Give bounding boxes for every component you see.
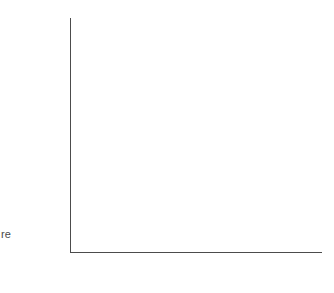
scatter-plot-figure: re bbox=[0, 0, 334, 293]
y-axis-title bbox=[24, 18, 38, 253]
plot-area bbox=[70, 18, 322, 253]
edge-text-fragment: re bbox=[1, 228, 11, 240]
regression-line bbox=[71, 18, 323, 253]
